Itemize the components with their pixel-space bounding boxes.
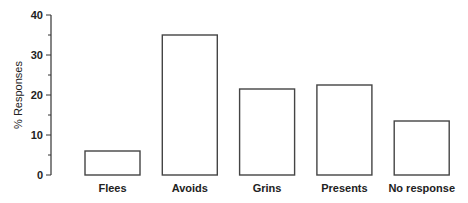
y-tick-label: 10 — [31, 129, 43, 141]
x-tick-label: Presents — [321, 182, 367, 194]
y-tick-label: 40 — [31, 9, 43, 21]
y-axis: 010203040 — [31, 9, 51, 181]
bars — [85, 35, 449, 175]
y-tick-label: 30 — [31, 49, 43, 61]
x-axis-labels: FleesAvoidsGrinsPresentsNo response — [98, 182, 455, 194]
y-tick-label: 0 — [37, 169, 43, 181]
bar-avoids — [162, 35, 217, 175]
x-tick-label: No response — [388, 182, 455, 194]
y-tick-label: 20 — [31, 89, 43, 101]
y-axis-title: % Responses — [12, 61, 24, 129]
x-tick-label: Grins — [253, 182, 282, 194]
bar-presents — [317, 85, 372, 175]
bar-no-response — [394, 121, 449, 175]
x-tick-label: Flees — [98, 182, 126, 194]
bar-flees — [85, 151, 140, 175]
bar-chart: % Responses 010203040 FleesAvoidsGrinsPr… — [0, 0, 468, 203]
x-tick-label: Avoids — [172, 182, 208, 194]
bar-grins — [240, 89, 295, 175]
